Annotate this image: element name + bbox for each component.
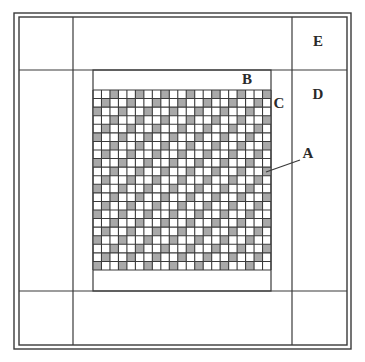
shaded-cell: [110, 116, 118, 125]
shaded-cell: [195, 210, 203, 219]
shaded-cell: [101, 176, 109, 185]
shaded-cell: [263, 141, 271, 150]
shaded-cell: [229, 253, 237, 262]
shaded-cell: [110, 141, 118, 150]
shaded-cell: [203, 99, 211, 108]
shaded-cell: [246, 261, 254, 270]
shaded-cell: [110, 219, 118, 228]
checker-grid-A: [93, 90, 271, 270]
shaded-cell: [135, 116, 143, 125]
shaded-cell: [263, 193, 271, 202]
quilt-diagram: [0, 0, 365, 362]
shaded-cell: [127, 150, 135, 159]
shaded-cell: [110, 193, 118, 202]
shaded-cell: [246, 133, 254, 142]
shaded-cell: [178, 99, 186, 108]
shaded-cell: [220, 210, 228, 219]
shaded-cell: [152, 253, 160, 262]
shaded-cell: [110, 90, 118, 99]
shaded-cell: [178, 201, 186, 210]
shaded-cell: [127, 124, 135, 133]
shaded-cell: [152, 227, 160, 236]
shaded-cell: [135, 90, 143, 99]
shaded-cell: [118, 210, 126, 219]
shaded-cell: [127, 176, 135, 185]
shaded-cell: [203, 227, 211, 236]
shaded-cell: [93, 184, 101, 193]
shaded-cell: [178, 150, 186, 159]
shaded-cell: [237, 244, 245, 253]
shaded-cell: [237, 167, 245, 176]
shaded-cell: [195, 133, 203, 142]
shaded-cell: [169, 210, 177, 219]
shaded-cell: [161, 244, 169, 253]
shaded-cell: [246, 236, 254, 245]
shaded-cell: [263, 244, 271, 253]
shaded-cell: [101, 124, 109, 133]
shaded-cell: [118, 159, 126, 168]
shaded-cell: [246, 210, 254, 219]
shaded-cell: [144, 236, 152, 245]
shaded-cell: [186, 193, 194, 202]
shaded-cell: [254, 176, 262, 185]
shaded-cell: [203, 124, 211, 133]
shaded-cell: [144, 210, 152, 219]
shaded-cell: [263, 116, 271, 125]
shaded-cell: [186, 90, 194, 99]
shaded-cell: [220, 107, 228, 116]
shaded-cell: [178, 227, 186, 236]
shaded-cell: [144, 107, 152, 116]
shaded-cell: [220, 159, 228, 168]
shaded-cell: [195, 236, 203, 245]
shaded-cell: [220, 184, 228, 193]
shaded-cell: [246, 184, 254, 193]
shaded-cell: [169, 261, 177, 270]
shaded-cell: [203, 253, 211, 262]
shaded-cell: [152, 176, 160, 185]
label-a: A: [303, 146, 314, 161]
shaded-cell: [101, 253, 109, 262]
shaded-cell: [246, 107, 254, 116]
shaded-cell: [186, 167, 194, 176]
shaded-cell: [169, 184, 177, 193]
shaded-cell: [254, 99, 262, 108]
shaded-cell: [118, 133, 126, 142]
shaded-cell: [93, 261, 101, 270]
shaded-cell: [203, 176, 211, 185]
shaded-cell: [93, 236, 101, 245]
shaded-cell: [212, 219, 220, 228]
shaded-cell: [186, 141, 194, 150]
shaded-cell: [135, 193, 143, 202]
label-b: B: [242, 72, 252, 87]
shaded-cell: [152, 150, 160, 159]
shaded-cell: [161, 167, 169, 176]
shaded-cell: [220, 236, 228, 245]
shaded-cell: [212, 244, 220, 253]
shaded-cell: [178, 124, 186, 133]
shaded-cell: [195, 159, 203, 168]
shaded-cell: [254, 150, 262, 159]
shaded-cell: [178, 176, 186, 185]
shaded-cell: [212, 167, 220, 176]
shaded-cell: [186, 219, 194, 228]
shaded-cell: [101, 201, 109, 210]
shaded-cell: [101, 227, 109, 236]
shaded-cell: [229, 99, 237, 108]
shaded-cell: [118, 236, 126, 245]
shaded-cell: [101, 99, 109, 108]
shaded-cell: [195, 107, 203, 116]
shaded-cell: [220, 133, 228, 142]
shaded-cell: [254, 253, 262, 262]
shaded-cell: [212, 116, 220, 125]
shaded-cell: [203, 150, 211, 159]
shaded-cell: [127, 253, 135, 262]
shaded-cell: [135, 219, 143, 228]
shaded-cell: [169, 133, 177, 142]
shaded-cell: [144, 159, 152, 168]
label-d: D: [313, 87, 324, 102]
shaded-cell: [161, 219, 169, 228]
shaded-cell: [203, 201, 211, 210]
shaded-cell: [144, 133, 152, 142]
shaded-cell: [110, 167, 118, 176]
shaded-cell: [152, 99, 160, 108]
